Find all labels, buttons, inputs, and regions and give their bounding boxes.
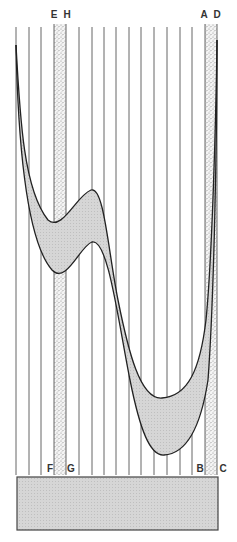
label-b: B — [196, 463, 203, 474]
base-box — [17, 477, 218, 530]
label-f: F — [47, 463, 53, 474]
label-g: G — [67, 463, 75, 474]
label-c: C — [219, 463, 226, 474]
diagram-canvas: EHAD FGBC — [0, 0, 237, 542]
top-labels: EHAD — [51, 9, 221, 20]
label-d: D — [213, 9, 220, 20]
curved-band — [16, 40, 217, 455]
bottom-labels: FGBC — [47, 463, 227, 474]
band-fill — [16, 40, 217, 455]
label-e: E — [51, 9, 58, 20]
label-a: A — [200, 9, 207, 20]
label-h: H — [63, 9, 70, 20]
